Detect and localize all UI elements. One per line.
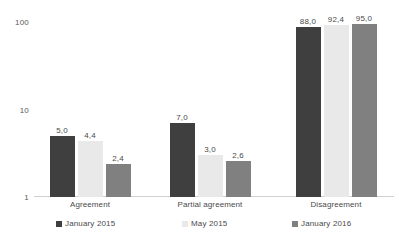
bar-jan2015-agreement[interactable] — [50, 136, 75, 197]
bar-slot: 2,6 — [226, 10, 251, 197]
legend-item-january-2016[interactable]: January 2016 — [292, 219, 351, 228]
bar-slot: 3,0 — [198, 10, 223, 197]
bar-value-label: 95,0 — [356, 14, 372, 23]
legend-label: January 2015 — [65, 219, 115, 228]
plot-area: 100 10 1 5,0 4,4 2,4 Agreement — [34, 10, 394, 197]
x-axis-category-agreement: Agreement — [70, 200, 110, 209]
bar-value-label: 7,0 — [176, 113, 188, 122]
x-axis-category-partial-agreement: Partial agreement — [178, 200, 243, 209]
bar-slot: 7,0 — [170, 10, 195, 197]
bar-chart: 100 10 1 5,0 4,4 2,4 Agreement — [0, 0, 399, 237]
legend-swatch-icon — [56, 221, 62, 227]
bar-slot: 88,0 — [296, 10, 321, 197]
legend-label: January 2016 — [301, 219, 351, 228]
bar-slot: 5,0 — [50, 10, 75, 197]
chart-legend: January 2015 May 2015 January 2016 — [34, 219, 394, 233]
bar-value-label: 5,0 — [56, 126, 68, 135]
legend-item-january-2015[interactable]: January 2015 — [56, 219, 115, 228]
bar-value-label: 2,6 — [232, 151, 244, 160]
x-axis-category-disagreement: Disagreement — [310, 200, 361, 209]
bar-jan2015-disagreement[interactable] — [296, 27, 321, 197]
bar-value-label: 3,0 — [204, 145, 216, 154]
y-axis-tick-10: 10 — [20, 105, 29, 114]
bar-slot: 2,4 — [106, 10, 131, 197]
bar-group-agreement: 5,0 4,4 2,4 Agreement — [40, 10, 140, 197]
bar-group-partial-agreement: 7,0 3,0 2,6 Partial agreement — [160, 10, 260, 197]
legend-swatch-icon — [182, 221, 188, 227]
legend-item-may-2015[interactable]: May 2015 — [182, 219, 227, 228]
bar-slot: 4,4 — [78, 10, 103, 197]
bar-slot: 95,0 — [352, 10, 377, 197]
bar-group-disagreement: 88,0 92,4 95,0 Disagreement — [286, 10, 386, 197]
bar-jan2016-agreement[interactable] — [106, 164, 131, 197]
bar-jan2016-disagreement[interactable] — [352, 24, 377, 197]
bar-may2015-partial-agreement[interactable] — [198, 155, 223, 197]
bar-value-label: 4,4 — [84, 131, 96, 140]
y-axis-tick-1: 1 — [24, 193, 29, 202]
legend-swatch-icon — [292, 221, 298, 227]
bar-slot: 92,4 — [324, 10, 349, 197]
bar-jan2015-partial-agreement[interactable] — [170, 123, 195, 197]
bar-jan2016-partial-agreement[interactable] — [226, 161, 251, 197]
bar-may2015-disagreement[interactable] — [324, 25, 349, 197]
bar-value-label: 2,4 — [112, 154, 124, 163]
y-axis-tick-100: 100 — [15, 18, 29, 27]
bar-may2015-agreement[interactable] — [78, 141, 103, 197]
legend-label: May 2015 — [191, 219, 227, 228]
bar-value-label: 92,4 — [328, 15, 344, 24]
bar-value-label: 88,0 — [300, 17, 316, 26]
